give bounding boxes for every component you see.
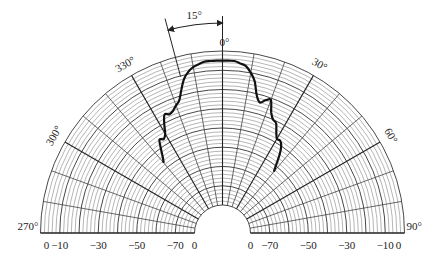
radial-tick-label-left: 0 bbox=[192, 239, 198, 251]
radial-tick-label-right: −70 bbox=[261, 239, 279, 251]
angle-tick-label: 60° bbox=[382, 126, 400, 145]
annotation-label: 15° bbox=[187, 9, 202, 21]
radial-tick-label-left: −10 bbox=[51, 239, 69, 251]
angle-tick-label: 330° bbox=[113, 54, 137, 75]
radial-tick-label-right: 0 bbox=[248, 239, 254, 251]
angle-tick-label: 270° bbox=[18, 220, 39, 232]
radial-tick-label-left: −70 bbox=[167, 239, 185, 251]
radial-tick-label-left: −50 bbox=[128, 239, 146, 251]
radial-tick-label-left: −30 bbox=[90, 239, 108, 251]
polar-pattern-chart: 270°300°330°0°30°60°90°0−10−30−50−7000−7… bbox=[0, 0, 443, 263]
angle-tick-label: 0° bbox=[220, 36, 230, 48]
radial-tick-label-left: 0 bbox=[44, 239, 50, 251]
annotation-arrow bbox=[168, 23, 222, 30]
angle-tick-label: 300° bbox=[43, 123, 64, 147]
radial-tick-label-right: 0 bbox=[396, 239, 402, 251]
angle-tick-label: 90° bbox=[407, 220, 422, 232]
radial-tick-label-right: −10 bbox=[377, 239, 395, 251]
radial-tick-label-right: −50 bbox=[300, 239, 318, 251]
polar-grid bbox=[41, 51, 405, 233]
radial-tick-label-right: −30 bbox=[338, 239, 356, 251]
angle-tick-label: 30° bbox=[310, 55, 329, 73]
